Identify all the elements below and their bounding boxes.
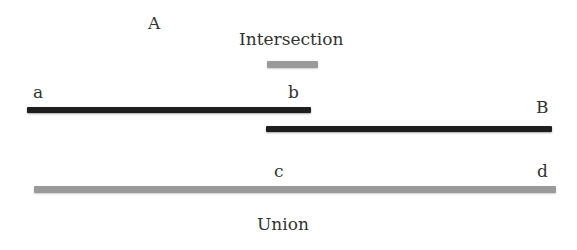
union-bar <box>34 186 556 193</box>
label-c: c <box>274 163 284 180</box>
interval-union-intersection-diagram: A Intersection a b B c d Union <box>0 0 577 250</box>
intersection-bar <box>267 61 318 68</box>
label-set-a: A <box>148 15 160 32</box>
label-b: b <box>288 84 299 101</box>
interval-b-bar <box>266 126 552 132</box>
label-intersection: Intersection <box>239 31 343 48</box>
label-d: d <box>537 163 548 180</box>
label-set-b: B <box>536 99 549 116</box>
label-union: Union <box>257 216 309 233</box>
label-a: a <box>33 84 43 101</box>
interval-a-bar <box>27 107 311 113</box>
